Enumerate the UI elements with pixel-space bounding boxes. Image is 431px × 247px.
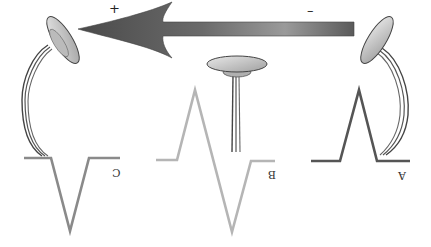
waveform-a <box>311 90 410 161</box>
electrode-b <box>207 56 267 152</box>
electrode-a <box>355 12 408 155</box>
waveform-c <box>24 158 120 231</box>
waveform-b <box>156 90 275 232</box>
waveform-a-label: A <box>398 169 406 182</box>
positive-pole-label: + <box>109 1 120 16</box>
ecg-electrode-diagram <box>0 0 431 247</box>
waveform-c-label: C <box>112 166 120 179</box>
waveform-b-label: B <box>268 168 276 181</box>
negative-pole-label: – <box>307 3 314 18</box>
electrode-c <box>22 12 85 156</box>
